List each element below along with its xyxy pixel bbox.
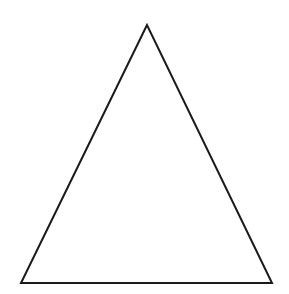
triangle-diagram	[0, 0, 289, 294]
triangle-shape	[21, 25, 272, 283]
